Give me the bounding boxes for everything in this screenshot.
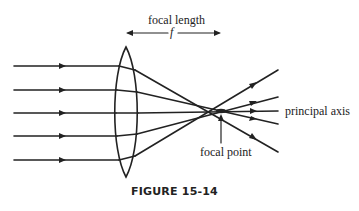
focal-length-label: focal length xyxy=(148,13,205,28)
incident-rays xyxy=(14,66,119,160)
principal-axis-label: principal axis xyxy=(285,104,350,119)
figure-canvas: focal length f principal axis focal poin… xyxy=(0,0,359,211)
figure-caption: FIGURE 15-14 xyxy=(131,185,218,198)
focal-length-symbol: f xyxy=(170,25,173,40)
focal-point-label: focal point xyxy=(200,145,252,160)
converging-rays xyxy=(135,70,278,156)
